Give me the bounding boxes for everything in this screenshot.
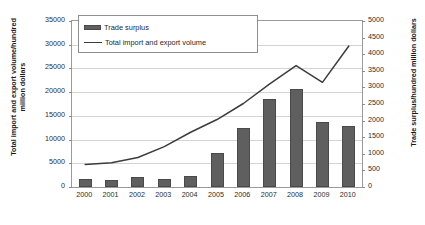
legend-label-total-import-export: Total import and export volume [105,38,206,47]
y-axis-right-ticks: 0500100015002000250030003500400045005000 [368,0,400,225]
y-axis-right-tickmark [362,137,365,138]
y-axis-left-tickmark [69,116,72,117]
y-axis-left-tickmark [69,163,72,164]
y-axis-left-tick-label: 25000 [45,63,65,71]
y-axis-right-tickmark [362,170,365,171]
y-axis-left-tickmark [69,68,72,69]
y-axis-right-tick-label: 1000 [368,149,384,157]
y-axis-left-tick-label: 0 [61,182,65,190]
y-axis-left-tickmark [69,21,72,22]
y-axis-right-tick-label: 3500 [368,66,384,74]
y-axis-right-tick-label: 4500 [368,33,384,41]
legend-item-trade-surplus: Trade surplus [84,20,252,35]
legend-label-trade-surplus: Trade surplus [104,23,149,32]
y-axis-right-tickmark [362,121,365,122]
y-axis-right-tick-label: 4000 [368,49,384,57]
y-axis-right-tick-label: 3000 [368,82,384,90]
y-axis-right-tick-label: 5000 [368,16,384,24]
y-axis-left-tickmark [69,45,72,46]
y-axis-left-tickmark [69,140,72,141]
line-swatch-icon [84,42,102,43]
y-axis-right-tickmark [362,87,365,88]
y-axis-right-tickmark [362,71,365,72]
y-axis-left-tickmark [69,92,72,93]
y-axis-right-tick-label: 2500 [368,99,384,107]
bar-swatch-icon [84,25,101,30]
y-axis-left-tick-label: 20000 [45,87,65,95]
y-axis-right-tickmark [362,187,365,188]
chart-legend: Trade surplus Total import and export vo… [78,15,258,53]
x-axis-label-2010: 2010 [333,190,363,199]
y-axis-right-tickmark [362,38,365,39]
y-axis-left-tickmark [69,187,72,188]
y-axis-right-tick-label: 0 [368,182,372,190]
y-axis-right-tick-label: 1500 [368,132,384,140]
y-axis-right-tickmark [362,104,365,105]
x-axis-labels: 2000200120022003200420052006200720082009… [71,190,361,204]
legend-item-total-import-export: Total import and export volume [84,35,252,50]
y-axis-left-tick-label: 5000 [49,158,65,166]
y-axis-right-tickmark [362,154,365,155]
y-axis-left-tick-label: 15000 [45,111,65,119]
y-axis-left-tick-label: 10000 [45,135,65,143]
y-axis-right-tickmark [362,54,365,55]
y-axis-left-tick-label: 35000 [45,16,65,24]
y-axis-right-tick-label: 500 [368,165,380,173]
chart-container: Total import and export volume/hundred m… [0,0,425,225]
y-axis-left-title: Total import and export volume/hundred m… [9,7,27,167]
y-axis-left-ticks: 05000100001500020000250003000035000 [33,0,65,225]
y-axis-right-tickmark [362,21,365,22]
y-axis-left-tick-label: 30000 [45,40,65,48]
y-axis-right-title: Trade surplus/hundred million dollars [409,3,418,163]
y-axis-right-tick-label: 2000 [368,116,384,124]
